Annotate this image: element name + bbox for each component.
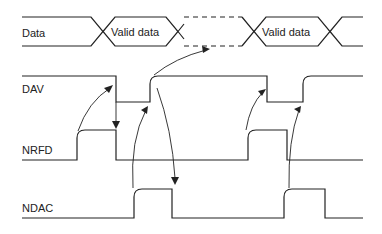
causal-arrows [78, 46, 301, 188]
data-segment-valid-1: Valid data [111, 26, 160, 38]
data-bus-waveform [22, 17, 363, 46]
signal-label-ndac: NDAC [22, 202, 53, 214]
nrfd-waveform [22, 130, 363, 160]
signal-label-nrfd: NRFD [22, 144, 53, 156]
ndac-waveform [22, 189, 363, 218]
timing-diagram: Data DAV NRFD NDAC Valid data Valid data [0, 0, 382, 234]
data-segment-valid-2: Valid data [262, 26, 311, 38]
signal-label-dav: DAV [22, 83, 44, 95]
dav-waveform [22, 76, 363, 102]
signal-label-data: Data [22, 27, 46, 39]
